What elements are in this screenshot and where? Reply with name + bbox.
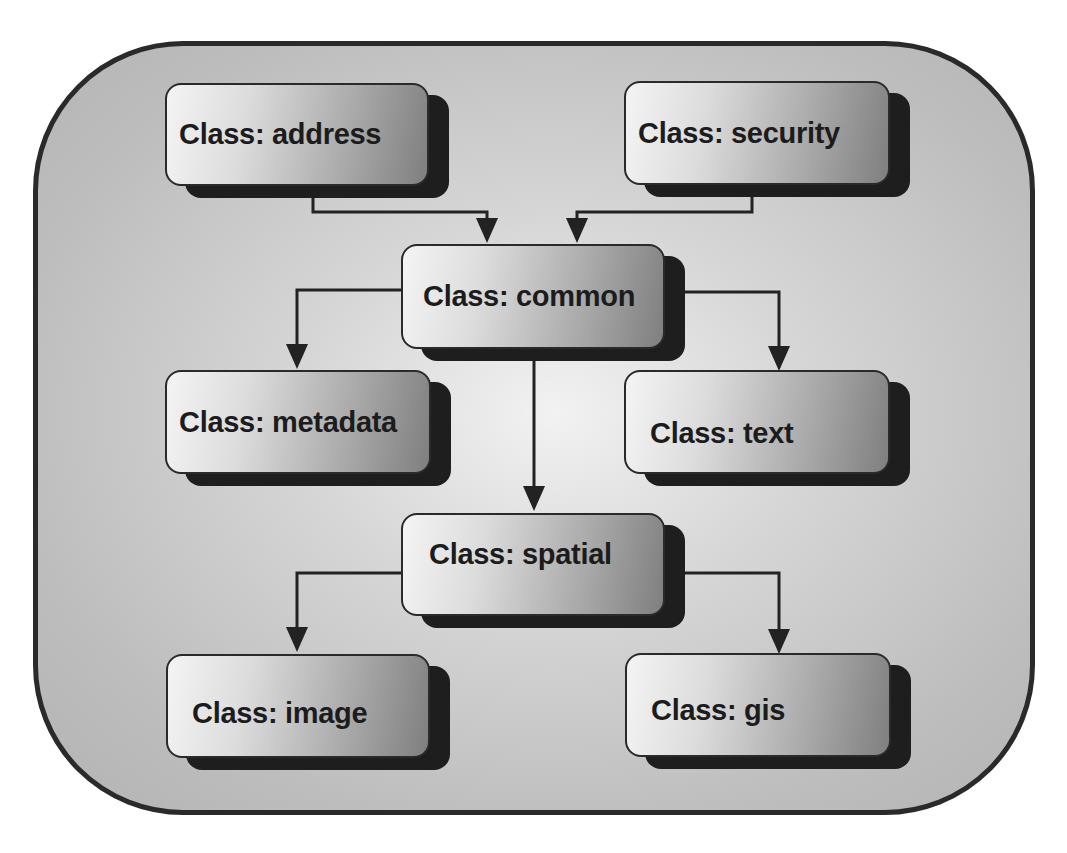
node-box: Class: text xyxy=(624,370,890,474)
node-security: Class: security xyxy=(624,81,890,185)
node-label: Class: gis xyxy=(651,694,785,727)
node-box: Class: spatial xyxy=(401,513,665,616)
node-box: Class: metadata xyxy=(165,370,431,474)
node-label: Class: metadata xyxy=(179,406,397,439)
node-box: Class: security xyxy=(624,81,890,185)
node-label: Class: image xyxy=(192,697,367,730)
node-box: Class: image xyxy=(166,654,430,758)
node-box: Class: gis xyxy=(625,653,891,757)
node-label: Class: spatial xyxy=(429,538,612,571)
node-common: Class: common xyxy=(401,244,665,349)
node-label: Class: text xyxy=(650,417,793,450)
node-box: Class: common xyxy=(401,244,665,349)
node-label: Class: address xyxy=(179,118,381,151)
node-label: Class: common xyxy=(423,280,635,313)
node-box: Class: address xyxy=(165,83,429,186)
node-metadata: Class: metadata xyxy=(165,370,431,474)
node-gis: Class: gis xyxy=(625,653,891,757)
node-image: Class: image xyxy=(166,654,430,758)
node-address: Class: address xyxy=(165,83,429,186)
node-label: Class: security xyxy=(638,117,840,150)
node-text: Class: text xyxy=(624,370,890,474)
node-spatial: Class: spatial xyxy=(401,513,665,616)
